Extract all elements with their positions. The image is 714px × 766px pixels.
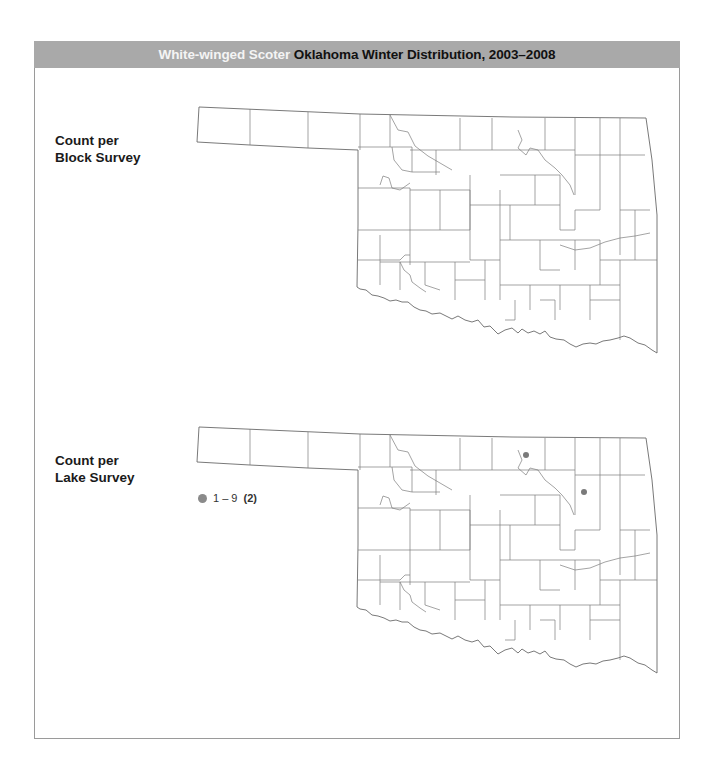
map-block-survey [197, 107, 657, 353]
map-lake-survey [197, 427, 657, 673]
observation-dot [523, 452, 529, 458]
observation-dot [581, 489, 587, 495]
oklahoma-maps [0, 0, 714, 766]
